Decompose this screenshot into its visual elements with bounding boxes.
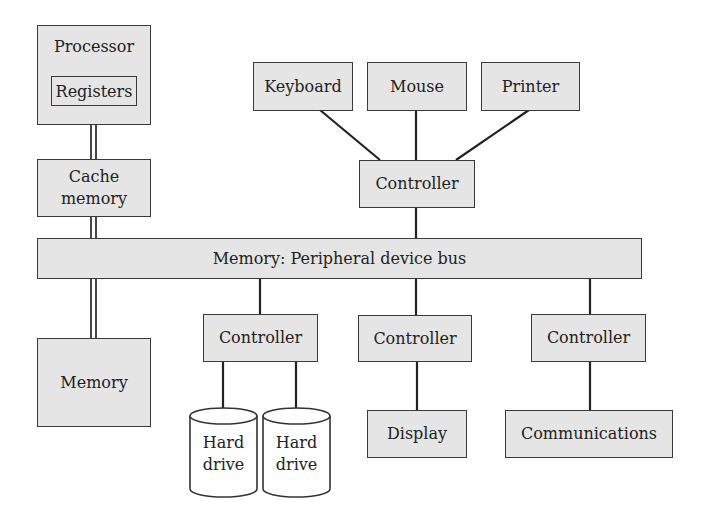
double-line-connector (91, 124, 96, 338)
controller-label: Controller (373, 328, 456, 350)
printer-label: Printer (502, 76, 559, 98)
comm-controller-box: Controller (531, 314, 646, 362)
hard-drive-1-line1: Hard (190, 432, 257, 454)
display-box: Display (367, 410, 467, 458)
processor-label: Processor (54, 36, 134, 58)
communications-label: Communications (521, 423, 657, 445)
hard-drive-2-line2: drive (263, 454, 330, 476)
cache-memory-box: Cache memory (37, 159, 151, 217)
input-controller-box: Controller (359, 160, 475, 208)
storage-controller-box: Controller (203, 314, 318, 362)
bus-label: Memory: Peripheral device bus (213, 248, 467, 270)
keyboard-label: Keyboard (264, 76, 341, 98)
controller-label: Controller (547, 327, 630, 349)
display-controller-box: Controller (358, 315, 472, 362)
controller-label: Controller (219, 327, 302, 349)
communications-box: Communications (505, 410, 673, 458)
hard-drive-2-label: Hard drive (263, 432, 330, 476)
printer-box: Printer (481, 62, 580, 111)
keyboard-box: Keyboard (253, 62, 353, 111)
mouse-box: Mouse (367, 62, 467, 111)
hard-drive-1-line2: drive (190, 454, 257, 476)
cache-label-line1: Cache (69, 166, 120, 188)
display-label: Display (387, 423, 447, 445)
hard-drive-1-label: Hard drive (190, 432, 257, 476)
memory-box: Memory (37, 338, 151, 427)
peripheral-bus: Memory: Peripheral device bus (37, 238, 642, 279)
cache-label-line2: memory (61, 188, 127, 210)
controller-label: Controller (375, 173, 458, 195)
mouse-label: Mouse (390, 76, 444, 98)
hard-drive-2-line1: Hard (263, 432, 330, 454)
registers-box: Registers (51, 76, 137, 106)
processor-box: Processor (37, 25, 151, 125)
memory-label: Memory (60, 372, 127, 394)
registers-label: Registers (56, 82, 133, 101)
